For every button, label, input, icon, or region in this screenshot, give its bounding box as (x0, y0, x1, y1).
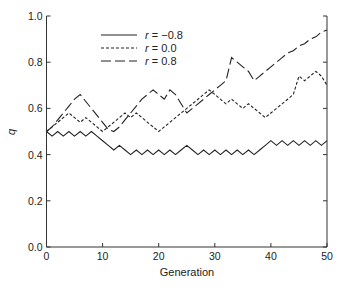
y-tick-label: 0.2 (28, 195, 43, 207)
y-tick-label: 0.8 (28, 56, 43, 68)
legend: r = −0.8r = 0.0r = 0.8 (101, 29, 183, 67)
y-tick-label: 0.4 (28, 149, 43, 161)
legend-label: r = 0.8 (145, 55, 177, 67)
x-tick-label: 20 (153, 250, 165, 262)
y-tick-label: 0.6 (28, 102, 43, 114)
x-tick-label: 0 (44, 250, 50, 262)
x-tick-label: 30 (209, 250, 221, 262)
axes (47, 16, 328, 247)
legend-label: r = 0.0 (145, 42, 177, 54)
x-tick-label: 50 (321, 250, 333, 262)
line-chart: 010203040500.00.20.40.60.81.0 Generation… (0, 0, 349, 291)
series-line-0 (47, 132, 328, 155)
y-axis-title: q (5, 128, 17, 135)
series-line-2 (47, 30, 328, 132)
legend-label: r = −0.8 (145, 29, 183, 41)
ticks (47, 16, 328, 247)
x-axis-title: Generation (160, 266, 214, 278)
plot-area (47, 30, 328, 155)
x-tick-label: 10 (97, 250, 109, 262)
x-tick-label: 40 (265, 250, 277, 262)
y-tick-label: 0.0 (28, 241, 43, 253)
y-tick-label: 1.0 (28, 10, 43, 22)
series-line-1 (47, 71, 328, 131)
